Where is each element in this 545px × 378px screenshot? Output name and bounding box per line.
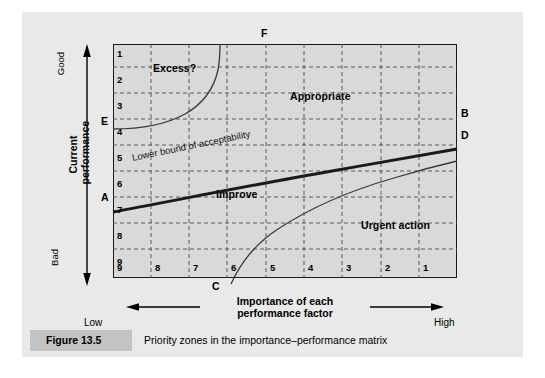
chart-plot-wrapper: Excess? Appropriate Improve Urgent actio…	[22, 12, 523, 357]
figure-number-tag: Figure 13.5	[30, 330, 132, 351]
point-label-d: D	[461, 129, 469, 141]
y-tick-2: 2	[117, 74, 122, 85]
y-tick-5: 5	[117, 152, 122, 163]
zone-label-appropriate: Appropriate	[290, 90, 351, 102]
y-tick-7: 7	[117, 204, 122, 215]
zone-label-improve: Improve	[216, 188, 258, 200]
x-tick-7: 7	[193, 262, 198, 273]
x-axis-label-high: High	[434, 317, 455, 328]
point-label-b: B	[461, 107, 469, 119]
y-tick-6: 6	[117, 178, 122, 189]
zone-label-excess: Excess?	[153, 62, 196, 74]
x-tick-1: 1	[423, 262, 428, 273]
y-axis-title-line1: Current	[67, 136, 79, 174]
x-tick-9: 9	[117, 262, 122, 273]
x-tick-8: 8	[155, 262, 160, 273]
y-axis-title-line2: performance	[78, 121, 90, 185]
line-lower-bound-of-acceptability-AB	[113, 149, 457, 212]
x-tick-2: 2	[385, 262, 390, 273]
x-tick-4: 4	[308, 262, 313, 273]
x-axis-label-low: Low	[84, 317, 102, 328]
x-axis-title-line1: Importance of each	[237, 295, 333, 307]
x-tick-5: 5	[270, 262, 275, 273]
x-tick-6: 6	[231, 262, 236, 273]
y-axis-label-good: Good	[55, 52, 66, 75]
y-tick-8: 8	[117, 230, 122, 241]
y-axis-title: Current performance	[68, 125, 91, 185]
figure-number-label: Figure 13.5	[46, 334, 101, 346]
x-tick-3: 3	[346, 262, 351, 273]
y-tick-4: 4	[117, 126, 122, 137]
y-axis-caption-group: Good Bad Current performance	[52, 44, 110, 278]
x-axis-title: Importance of each performance factor	[204, 295, 366, 319]
grid-lines	[113, 44, 457, 278]
figure-caption-text: Priority zones in the importance–perform…	[144, 334, 387, 346]
point-label-f: F	[261, 27, 267, 39]
y-axis-label-bad: Bad	[49, 249, 60, 266]
curve-excess-boundary-EF	[113, 44, 220, 129]
y-tick-1: 1	[117, 48, 122, 59]
figure-card: Excess? Appropriate Improve Urgent actio…	[22, 12, 523, 357]
zone-label-urgent-action: Urgent action	[361, 219, 430, 231]
x-axis-title-line2: performance factor	[237, 307, 333, 319]
point-label-c: C	[212, 280, 220, 292]
figure-caption-row: Figure 13.5 Priority zones in the import…	[22, 330, 523, 352]
y-tick-3: 3	[117, 100, 122, 111]
